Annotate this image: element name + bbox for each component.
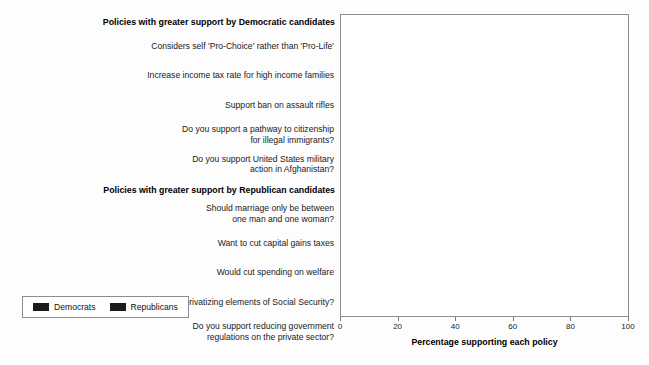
- bar-democrats: [340, 66, 501, 75]
- label-line: Increase income tax rate for high income…: [64, 70, 334, 81]
- y-axis-tick-label: Increase income tax rate for high income…: [64, 70, 334, 81]
- legend-label-democrats: Democrats: [54, 302, 96, 312]
- y-axis-tick-label: Considers self 'Pro-Choice' rather than …: [64, 41, 334, 52]
- y-axis-tick-label: Do you support reducing governmentregula…: [64, 321, 334, 342]
- y-axis-tick-label: Do you support United States militaryact…: [64, 154, 334, 175]
- bar-democrats: [340, 292, 352, 301]
- label-line: Would cut spending on welfare: [64, 267, 334, 278]
- legend-entry-democrats: Democrats: [33, 302, 96, 312]
- label-line: regulations on the private sector?: [64, 332, 334, 343]
- label-line: Support ban on assault rifles: [64, 100, 334, 111]
- chart-legend: Democrats Republicans: [22, 296, 189, 318]
- legend-swatch-icon: [110, 303, 126, 311]
- bar-republicans: [340, 165, 496, 174]
- x-axis-tick: [398, 317, 399, 321]
- y-axis-tick-label: Do you support a pathway to citizenshipf…: [64, 124, 334, 145]
- x-axis: 020406080100: [340, 317, 629, 337]
- label-line: for illegal immigrants?: [64, 135, 334, 146]
- label-line: Do you support reducing government: [64, 321, 334, 332]
- legend-swatch-icon: [33, 303, 49, 311]
- x-axis-tick-label: 20: [393, 322, 402, 331]
- x-axis-tick-label: 100: [621, 322, 634, 331]
- label-line: Considers self 'Pro-Choice' rather than …: [64, 41, 334, 52]
- x-axis-tick: [570, 317, 571, 321]
- legend-label-republicans: Republicans: [131, 302, 178, 312]
- bar-democrats: [340, 154, 576, 163]
- bar-republicans: [340, 274, 547, 283]
- x-axis-tick-label: 0: [338, 322, 342, 331]
- label-line: action in Afghanistan?: [64, 164, 334, 175]
- x-axis-tick: [628, 317, 629, 321]
- label-line: Do you support United States military: [64, 154, 334, 165]
- group-title: Policies with greater support by Republi…: [35, 185, 335, 195]
- x-axis-tick-label: 40: [451, 322, 460, 331]
- x-axis-tick: [340, 317, 341, 321]
- label-line: Do you support a pathway to citizenship: [64, 124, 334, 135]
- bar-democrats: [340, 95, 547, 104]
- bar-republicans: [340, 215, 611, 224]
- x-axis-tick: [513, 317, 514, 321]
- y-axis-tick-label: Want to cut capital gains taxes: [64, 238, 334, 249]
- x-axis-tick: [455, 317, 456, 321]
- bar-republicans: [340, 77, 354, 86]
- bar-republicans: [340, 136, 412, 145]
- bar-democrats: [340, 204, 429, 213]
- bar-republicans: [340, 106, 375, 115]
- bar-republicans: [340, 303, 565, 312]
- bar-chart-figure: Policies with greater support by Democra…: [0, 0, 649, 365]
- x-axis-tick-label: 60: [508, 322, 517, 331]
- x-axis-tick-label: 80: [566, 322, 575, 331]
- bar-democrats: [340, 263, 424, 272]
- bar-democrats: [340, 125, 588, 134]
- bar-republicans: [340, 47, 366, 56]
- bar-democrats: [340, 36, 553, 45]
- x-axis-title: Percentage supporting each policy: [340, 337, 629, 347]
- label-line: one man and one woman?: [64, 214, 334, 225]
- label-line: Should marriage only be between: [64, 203, 334, 214]
- y-axis-tick-label: Should marriage only be betweenone man a…: [64, 203, 334, 224]
- group-title: Policies with greater support by Democra…: [35, 17, 335, 27]
- bar-republicans: [340, 244, 585, 253]
- bar-democrats: [340, 233, 380, 242]
- y-axis-tick-label: Would cut spending on welfare: [64, 267, 334, 278]
- label-line: Want to cut capital gains taxes: [64, 238, 334, 249]
- legend-entry-republicans: Republicans: [110, 302, 178, 312]
- y-axis-tick-label: Support ban on assault rifles: [64, 100, 334, 111]
